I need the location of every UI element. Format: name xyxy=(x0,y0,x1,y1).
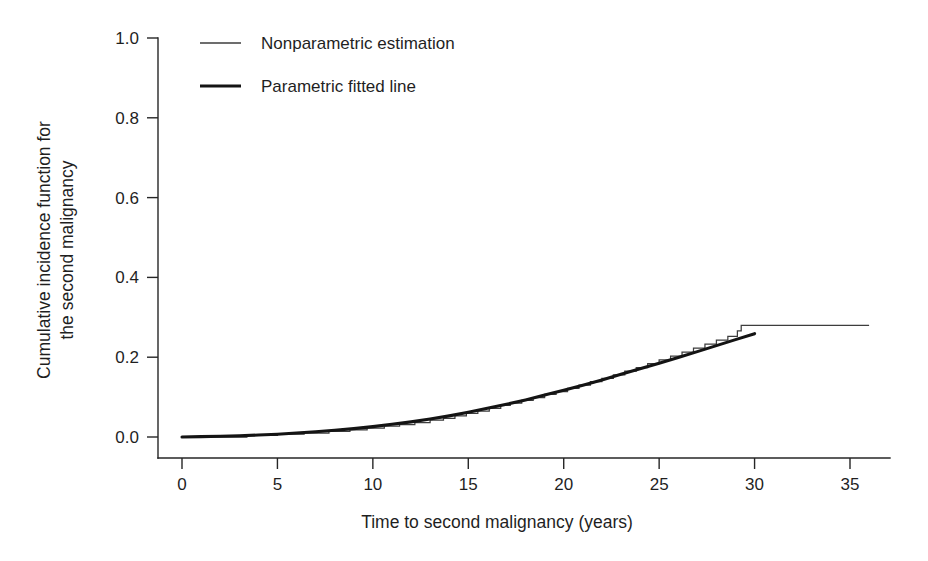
x-axis-tick-label: 35 xyxy=(841,475,860,494)
y-axis-tick-label: 0.8 xyxy=(115,109,139,128)
x-axis-title: Time to second malignancy (years) xyxy=(361,512,633,532)
y-axis-tick-label: 0.6 xyxy=(115,189,139,208)
y-axis-tick-label: 0.4 xyxy=(115,268,139,287)
y-axis-title-line-1: Cumulative incidence function for xyxy=(34,121,54,379)
x-axis-tick-label: 5 xyxy=(273,475,282,494)
x-axis-title-group: Time to second malignancy (years) xyxy=(361,512,633,532)
legend-label-parametric: Parametric fitted line xyxy=(261,77,416,96)
y-axis-tick-label: 0.0 xyxy=(115,428,139,447)
y-axis-tick-label: 0.2 xyxy=(115,348,139,367)
x-axis-tick-label: 25 xyxy=(650,475,669,494)
x-axis-tick-label: 30 xyxy=(745,475,764,494)
chart-figure: 0.00.20.40.60.81.0 05101520253035 Time t… xyxy=(0,0,928,561)
y-axis-tick-label: 1.0 xyxy=(115,29,139,48)
x-axis-tick-label: 20 xyxy=(554,475,573,494)
x-axis-tick-label: 0 xyxy=(177,475,186,494)
x-axis-tick-label: 10 xyxy=(363,475,382,494)
legend-label-nonparametric: Nonparametric estimation xyxy=(261,34,455,53)
x-axis-tick-label: 15 xyxy=(459,475,478,494)
cumulative-incidence-chart: 0.00.20.40.60.81.0 05101520253035 Time t… xyxy=(0,0,928,561)
y-axis-title-line-2: the second malignancy xyxy=(57,160,77,339)
